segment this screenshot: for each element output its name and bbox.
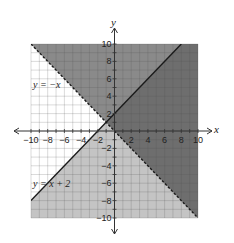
x-tick-label: −8 [43,135,53,145]
y-axis-label: y [110,16,116,28]
y-tick-label: 8 [106,56,111,66]
x-tick-label: 10 [193,135,203,145]
y-tick-label: −10 [96,213,111,223]
x-tick-label: 2 [129,135,134,145]
y-tick-label: −8 [101,196,111,206]
x-tick-label: −6 [59,135,69,145]
y-tick-label: 4 [106,91,111,101]
x-tick-label: −4 [76,135,86,145]
x-tick-label: −10 [23,135,38,145]
line-label-y-neg-x: y = −x [32,79,61,90]
y-tick-label: 6 [106,74,111,84]
x-tick-label: 6 [162,135,167,145]
y-tick-label: 2 [106,109,111,119]
y-tick-label: −4 [101,161,111,171]
y-tick-label: 10 [101,39,111,49]
x-tick-label: 4 [145,135,150,145]
y-tick-label: −6 [101,178,111,188]
line-label-y-x-plus-2: y = x + 2 [32,178,70,189]
x-axis-label: x [213,123,219,135]
y-tick-label: −2 [101,143,111,153]
x-tick-label: 8 [179,135,184,145]
inequality-graph: −10−8−6−4−2246810108642−2−4−6−8−10 x y y… [0,0,234,243]
